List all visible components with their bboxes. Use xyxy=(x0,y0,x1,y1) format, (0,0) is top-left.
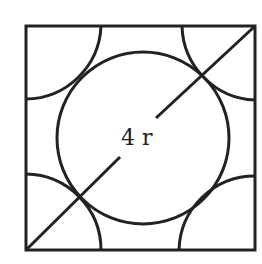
corner-arc-bottom-right xyxy=(179,176,255,250)
diameter-label: 4 r xyxy=(121,125,153,150)
diagonal-lower xyxy=(27,157,120,249)
corner-arc-top-left xyxy=(26,26,101,99)
diagonal-upper xyxy=(156,27,254,118)
diagram: 4 r xyxy=(0,0,262,264)
